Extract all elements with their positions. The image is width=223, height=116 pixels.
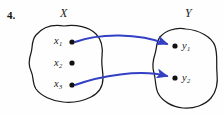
element-label-y2: y2 bbox=[182, 72, 190, 83]
arrow-x1-to-y1 bbox=[75, 35, 167, 44]
element-subscript-y2: 2 bbox=[187, 77, 190, 84]
item-number: 4. bbox=[7, 9, 15, 21]
dot-x3 bbox=[69, 82, 74, 87]
element-base-y2: y bbox=[182, 72, 187, 83]
dot-y1 bbox=[172, 43, 177, 48]
element-label-y1: y1 bbox=[182, 40, 190, 51]
element-label-x2: x2 bbox=[54, 57, 62, 68]
dot-x2 bbox=[69, 60, 74, 65]
element-subscript-x1: 1 bbox=[59, 40, 62, 47]
element-subscript-y1: 1 bbox=[187, 45, 190, 52]
element-label-x3: x3 bbox=[54, 78, 62, 89]
set-label-y: Y bbox=[185, 6, 192, 21]
function-mapping-figure: 4. X Y x1 x2 x3 y1 y2 bbox=[0, 0, 223, 116]
element-base-x2: x bbox=[54, 57, 59, 68]
element-base-x3: x bbox=[54, 78, 59, 89]
dot-y2 bbox=[172, 75, 177, 80]
arrow-x3-to-y2 bbox=[75, 73, 167, 85]
set-label-x: X bbox=[60, 6, 67, 21]
element-base-y1: y bbox=[182, 40, 187, 51]
dot-x1 bbox=[69, 39, 74, 44]
element-subscript-x2: 2 bbox=[59, 62, 62, 69]
element-base-x1: x bbox=[54, 35, 59, 46]
element-subscript-x3: 3 bbox=[59, 83, 62, 90]
element-label-x1: x1 bbox=[54, 35, 62, 46]
